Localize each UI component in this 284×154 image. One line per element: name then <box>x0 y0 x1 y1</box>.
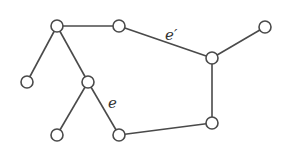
node-I <box>21 76 33 88</box>
node-B <box>113 20 125 32</box>
edge-A-I <box>27 26 57 82</box>
node-H <box>82 76 94 88</box>
node-E <box>206 117 218 129</box>
node-C <box>259 21 271 33</box>
edge-label-e: e <box>108 94 117 112</box>
edge-H-G <box>57 82 88 135</box>
node-A <box>51 20 63 32</box>
node-G <box>51 129 63 141</box>
edge-label-e-prime: e′ <box>165 26 178 44</box>
edge-A-H <box>57 26 88 82</box>
node-D <box>206 52 218 64</box>
node-F <box>113 129 125 141</box>
graph-diagram: e′ e <box>0 0 284 154</box>
graph-edges <box>27 26 265 135</box>
edge-C-D <box>212 27 265 58</box>
graph-nodes <box>21 20 271 141</box>
edge-E-F <box>119 123 212 135</box>
